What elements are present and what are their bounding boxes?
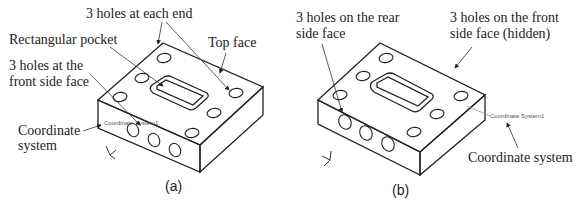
label-top-face: Top face (208, 35, 256, 50)
label-rear-holes-1: 3 holes on the rear (296, 10, 400, 25)
label-coord-b: Coordinate system (468, 150, 573, 165)
label-coord-a-2: system (18, 138, 57, 153)
leader-holes-each-end-1 (158, 22, 162, 44)
label-front-hidden-1: 3 holes on the front (450, 10, 559, 25)
leader-rear-holes (322, 44, 342, 112)
rear-side-holes (336, 113, 396, 154)
label-front-hidden-2: side face (hidden) (450, 26, 551, 42)
rectangular-pocket (150, 76, 208, 110)
top-face-holes-b (332, 52, 468, 137)
leader-coord-b (507, 123, 518, 148)
front-side-holes (125, 121, 183, 158)
caption-a: (a) (165, 178, 182, 194)
leader-front-hidden (455, 47, 472, 68)
cad-coord-tag-b: Coordinate System1 (490, 113, 545, 119)
label-coord-a-1: Coordinate (18, 123, 80, 138)
rectangular-pocket-b (370, 73, 433, 112)
leader-holes-each-end-2 (166, 22, 229, 90)
cad-coord-tag-a: Coordinate System1 (104, 120, 159, 126)
label-rect-pocket: Rectangular pocket (9, 32, 118, 47)
label-holes-each-end: 3 holes at each end (86, 6, 193, 21)
label-front-holes-2: front side face (9, 74, 89, 89)
figure-canvas: Coordinate System1 3 holes at each end R… (0, 0, 585, 208)
triad-icon (106, 146, 116, 159)
cad-axis-line (467, 106, 490, 116)
triad-icon-b (322, 151, 331, 166)
caption-b: (b) (392, 182, 409, 198)
label-front-holes-1: 3 holes at the (9, 58, 83, 73)
label-rear-holes-2: side face (296, 26, 345, 41)
